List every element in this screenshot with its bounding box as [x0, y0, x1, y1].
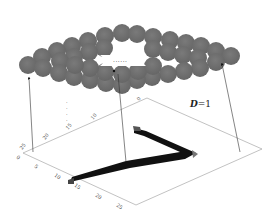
y-tick-25: 25 [18, 142, 27, 151]
hole-ellipsis: ...... [113, 56, 127, 63]
x-tick-15: 15 [73, 182, 82, 191]
center-arrow-tip [113, 70, 115, 72]
arrow-right [222, 64, 240, 152]
d-label: D=1 [189, 99, 211, 109]
x-tick-0: 0 [15, 154, 21, 161]
digit-stroke [68, 126, 198, 184]
sphere-lattice: ...... [19, 24, 240, 94]
x-tick-25: 25 [115, 202, 124, 211]
x-tick-5: 5 [33, 163, 39, 170]
plane-outline [23, 98, 262, 205]
y-tick-10: 10 [89, 112, 98, 121]
y-tick-20: 20 [41, 132, 50, 141]
plane-with-digit: 0 5 10 15 20 25 25 20 15 10 0 · · · · · … [15, 95, 262, 210]
arrow-left [29, 78, 33, 152]
diagram-canvas: ...... 0 5 10 15 20 25 25 20 15 10 0 · ·… [0, 0, 280, 220]
x-tick-10: 10 [53, 172, 62, 181]
x-tick-20: 20 [94, 192, 103, 201]
